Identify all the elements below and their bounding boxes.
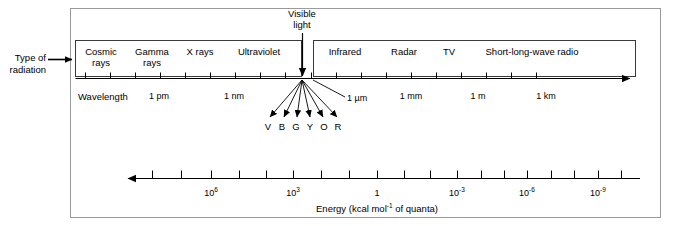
energy-tick-1e-9-base: 10 (590, 188, 600, 198)
band-label-gamma-rays-line1: Gamma (135, 46, 169, 57)
right-radiation-box (314, 41, 636, 77)
energy-axis-title: Energy (kcal mol-1 of quanta) (316, 203, 438, 214)
energy-tick-1e-3-base: 10 (449, 188, 459, 198)
energy-tick-1e3-exp: 3 (296, 186, 300, 193)
energy-tick-1e6: 106 (204, 188, 218, 199)
energy-tick-1e-9-exp: -9 (600, 186, 606, 193)
wavelength-tick-1um: 1 µm (347, 93, 367, 104)
wavelength-tick-1km: 1 km (536, 91, 556, 102)
wavelength-tick-1pm: 1 pm (149, 91, 169, 102)
energy-axis-title-pre: Energy (kcal mol (316, 203, 387, 214)
band-label-gamma-rays-line2: rays (135, 57, 169, 68)
band-label-short-long-wave-radio: Short-long-wave radio (486, 46, 579, 57)
color-letter-violet: V (265, 121, 271, 132)
visible-light-line2: light (272, 19, 332, 30)
energy-tick-1e-3: 10-3 (449, 188, 465, 199)
energy-tick-1e3: 103 (286, 188, 300, 199)
type-of-radiation-label: Type of radiation (2, 52, 46, 76)
energy-tick-1e3-base: 10 (286, 188, 296, 198)
energy-tick-1e-6: 10-6 (519, 188, 535, 199)
color-letter-blue: B (279, 121, 285, 132)
band-label-x-rays: X rays (187, 46, 214, 57)
energy-tick-1e-9: 10-9 (590, 188, 606, 199)
spectrum-figure: Type of radiation Visible light Cosmic r… (0, 0, 679, 226)
type-of-radiation-line2: radiation (2, 64, 46, 76)
visible-light-label: Visible light (272, 8, 332, 30)
micrometre-leader-line (313, 80, 345, 97)
visible-color-rays (270, 80, 337, 117)
band-label-x-rays-line1: X rays (187, 46, 214, 57)
band-label-cosmic-rays-line1: Cosmic (85, 46, 117, 57)
energy-tick-1e-3-exp: -3 (459, 186, 465, 193)
energy-ticks (153, 171, 622, 179)
band-label-tv: TV (443, 46, 455, 57)
color-letter-green: G (292, 121, 299, 132)
color-letter-orange: O (320, 121, 327, 132)
band-label-infrared: Infrared (329, 46, 362, 57)
color-letter-red: R (335, 121, 342, 132)
band-label-cosmic-rays: Cosmic rays (85, 46, 117, 68)
energy-axis-title-post: of quanta) (393, 203, 438, 214)
band-label-gamma-rays: Gamma rays (135, 46, 169, 68)
wavelength-tick-1mm: 1 mm (400, 91, 423, 102)
wavelength-axis-name: Wavelength (78, 91, 128, 102)
color-letter-yellow: Y (307, 121, 313, 132)
wavelength-tick-1m: 1 m (470, 91, 485, 102)
band-label-cosmic-rays-line2: rays (85, 57, 117, 68)
energy-tick-1: 1 (374, 188, 379, 199)
figure-vector-layer (0, 0, 679, 226)
band-label-ultraviolet-line1: Ultraviolet (238, 46, 280, 57)
energy-tick-1e-6-exp: -6 (529, 186, 535, 193)
band-label-radar: Radar (391, 46, 417, 57)
figure-border (71, 9, 661, 218)
energy-tick-1-base: 1 (374, 188, 379, 198)
visible-light-line1: Visible (272, 8, 332, 19)
wavelength-ticks (86, 73, 537, 79)
type-of-radiation-line1: Type of (2, 52, 46, 64)
wavelength-tick-1nm: 1 nm (224, 91, 244, 102)
energy-tick-1e6-exp: 6 (214, 186, 218, 193)
energy-tick-1e6-base: 10 (204, 188, 214, 198)
energy-tick-1e-6-base: 10 (519, 188, 529, 198)
band-label-ultraviolet: Ultraviolet (238, 46, 280, 57)
